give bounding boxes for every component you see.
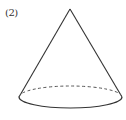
cone-left-slant-edge: [19, 9, 70, 97]
cone-base-front-arc: [19, 97, 122, 108]
cone-right-slant-edge: [70, 9, 122, 97]
cone-diagram: [0, 0, 126, 120]
cone-base-back-arc-hidden: [19, 86, 122, 97]
